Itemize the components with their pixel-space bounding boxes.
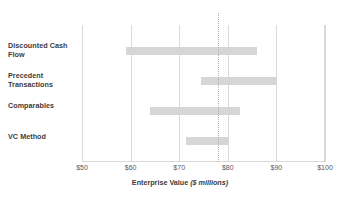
x-axis-title-main: Enterprise Value [132, 178, 188, 187]
category-label-precedent-transactions: Precedent Transactions [8, 71, 80, 89]
x-tick-label: $50 [76, 164, 88, 171]
category-label-line: Transactions [8, 80, 80, 89]
x-tick-label: $80 [222, 164, 234, 171]
x-tick-label: $100 [317, 164, 333, 171]
range-bar [201, 77, 276, 85]
gridline [228, 25, 229, 162]
category-label-discounted-cash-flow: Discounted Cash Flow [8, 41, 80, 59]
football-field-valuation-chart: Discounted Cash Flow Precedent Transacti… [0, 0, 360, 198]
gridline [179, 25, 180, 162]
category-label-line: Flow [8, 50, 80, 59]
gridline [82, 25, 83, 162]
category-label-line: Discounted Cash [8, 41, 80, 50]
x-axis-line [82, 161, 325, 162]
gridline [325, 25, 326, 162]
plot-area [82, 25, 325, 162]
x-tick-label: $70 [173, 164, 185, 171]
category-label-line: Comparables [8, 101, 80, 110]
gridline [276, 25, 277, 162]
range-bar [150, 107, 240, 115]
range-bar [186, 137, 227, 145]
category-label-line: VC Method [8, 132, 80, 141]
x-tick-label: $90 [271, 164, 283, 171]
gridline [131, 25, 132, 162]
x-tick-label: $60 [125, 164, 137, 171]
reference-line [218, 13, 219, 162]
category-label-comparables: Comparables [8, 101, 80, 110]
category-label-vc-method: VC Method [8, 132, 80, 141]
range-bar [126, 47, 257, 55]
x-axis-title-units: ($ millions) [190, 178, 228, 187]
x-axis-title: Enterprise Value ($ millions) [0, 178, 360, 187]
category-label-line: Precedent [8, 71, 80, 80]
